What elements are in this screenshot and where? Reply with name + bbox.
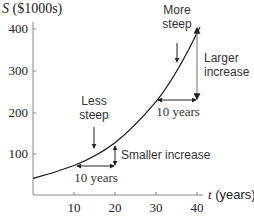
x-tick-label-40: 40 (191, 200, 204, 215)
less-steep-annotation: Less steep (79, 94, 109, 148)
larger-increase-label: Larger (204, 51, 239, 65)
svg-text:Less: Less (81, 94, 106, 108)
large-increase-triangle (158, 28, 197, 100)
x-tick-label-10: 10 (68, 200, 81, 215)
ten-years-label-2: 10 years (156, 104, 200, 119)
larger-increase-label-2: increase (204, 65, 250, 79)
small-increase-triangle (77, 146, 115, 166)
x-tick-label-20: 20 (109, 200, 122, 215)
smaller-increase-label: Smaller increase (121, 148, 211, 162)
y-tick-label-300: 300 (9, 63, 29, 78)
y-ticks: 400 300 200 100 (9, 21, 37, 161)
ten-years-label-1: 10 years (74, 170, 118, 185)
x-axis-title: t (years) (208, 187, 254, 202)
y-tick-label-200: 200 (9, 105, 29, 120)
exponential-growth-chart: S ($1000s) 400 300 200 100 10 20 30 40 t… (0, 0, 254, 220)
svg-text:More: More (163, 3, 191, 17)
more-steep-annotation: More steep (162, 3, 192, 62)
y-tick-label-100: 100 (9, 146, 29, 161)
y-axis-title: S ($1000s) (2, 1, 63, 17)
svg-text:steep: steep (162, 17, 192, 31)
y-tick-label-400: 400 (9, 21, 29, 36)
x-tick-label-30: 30 (150, 200, 163, 215)
svg-text:steep: steep (79, 108, 109, 122)
